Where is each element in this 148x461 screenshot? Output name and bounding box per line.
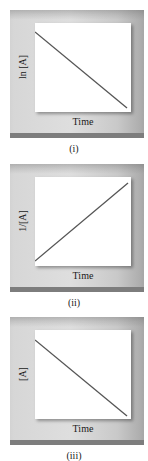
- bottom-stripe: [10, 440, 144, 445]
- plot-panel: ln [A] Time: [10, 10, 144, 138]
- figure-caption: (iii): [0, 450, 148, 461]
- figure-caption: (i): [0, 143, 148, 154]
- bottom-stripe: [10, 133, 144, 138]
- plot-area: [35, 177, 131, 266]
- x-axis-label: Time: [35, 116, 131, 127]
- line-chart: [35, 330, 131, 419]
- plot-area: [35, 330, 131, 419]
- increasing-line: [35, 183, 128, 261]
- figure-iii: [A] Time (iii): [0, 307, 148, 461]
- decreasing-line: [35, 32, 127, 108]
- plot-area: [35, 23, 131, 112]
- bottom-stripe: [10, 287, 144, 292]
- line-chart: [35, 177, 131, 266]
- x-axis-label: Time: [35, 270, 131, 281]
- figure-i: ln [A] Time (i): [0, 0, 148, 154]
- figure-ii: 1/[A] Time (ii): [0, 154, 148, 308]
- decreasing-line: [35, 340, 127, 416]
- plot-panel: [A] Time: [10, 317, 144, 445]
- x-axis-label: Time: [35, 423, 131, 434]
- line-chart: [35, 23, 131, 112]
- plot-panel: 1/[A] Time: [10, 164, 144, 292]
